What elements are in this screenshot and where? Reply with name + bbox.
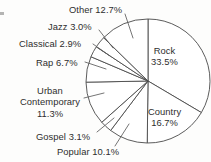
- pie-label-urban-contemporary-line-1: Urban: [20, 85, 80, 96]
- pie-label-rock: Rock33.5%: [151, 45, 178, 68]
- pie-label-gospel-line-1: Gospel 3.1%: [36, 131, 90, 142]
- pie-label-rap-line-1: Rap 6.7%: [36, 57, 78, 68]
- pie-label-classical-line-1: Classical 2.9%: [19, 38, 81, 49]
- pie-label-rock-line-1: Rock: [151, 45, 178, 56]
- pie-label-urban-contemporary-line-3: 11.3%: [20, 108, 80, 119]
- pie-label-gospel: Gospel 3.1%: [36, 131, 90, 142]
- pie-label-popular: Popular 10.1%: [57, 146, 119, 157]
- pie-label-classical: Classical 2.9%: [19, 38, 81, 49]
- pie-label-urban-contemporary: UrbanContemporary11.3%: [20, 85, 80, 119]
- pie-label-rock-line-2: 33.5%: [151, 56, 178, 67]
- pie-label-other-line-1: Other 12.7%: [69, 4, 122, 15]
- pie-label-other: Other 12.7%: [69, 4, 122, 15]
- pie-chart-canvas: [0, 0, 211, 162]
- pie-label-rap: Rap 6.7%: [36, 57, 78, 68]
- pie-label-urban-contemporary-line-2: Contemporary: [20, 96, 80, 107]
- pie-label-country-line-1: Country: [148, 106, 181, 117]
- pie-label-jazz-line-1: Jazz 3.0%: [48, 21, 92, 32]
- pie-label-country-line-2: 16.7%: [148, 117, 181, 128]
- pie-label-popular-line-1: Popular 10.1%: [57, 146, 119, 157]
- pie-label-jazz: Jazz 3.0%: [48, 21, 92, 32]
- pie-chart: Rock33.5%Country16.7%Popular 10.1%Gospel…: [0, 0, 211, 162]
- pie-label-country: Country16.7%: [148, 106, 181, 129]
